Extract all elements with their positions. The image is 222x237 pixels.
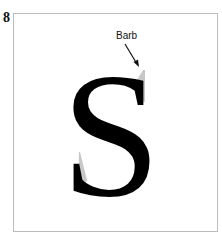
letter-s-glyph: S	[62, 36, 161, 234]
barb-label: Barb	[116, 30, 137, 41]
letter-s-diagram: S	[0, 0, 222, 237]
